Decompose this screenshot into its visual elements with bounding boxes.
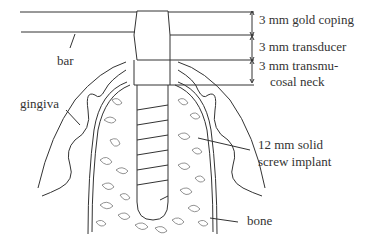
bone — [88, 82, 217, 234]
dimension-markers — [250, 11, 254, 83]
bar — [20, 12, 254, 35]
transducer — [134, 60, 254, 85]
gingiva — [38, 62, 265, 196]
transducer-label: 3 mm transducer — [259, 40, 346, 54]
transmucosal-neck-label-line2: cosal neck — [270, 75, 325, 89]
implant-label-line1: 12 mm solid — [258, 138, 323, 152]
bar-label: bar — [57, 54, 74, 68]
gingiva-label: gingiva — [20, 97, 59, 111]
screw-implant — [137, 85, 168, 220]
transmucosal-neck-label-line1: 3 mm transmu- — [259, 59, 338, 73]
gold-coping-label: 3 mm gold coping — [259, 13, 354, 27]
bone-label: bone — [247, 214, 272, 228]
leader-lines — [66, 34, 250, 222]
implant-label-line2: screw implant — [258, 155, 331, 169]
implant-diagram — [0, 0, 379, 252]
